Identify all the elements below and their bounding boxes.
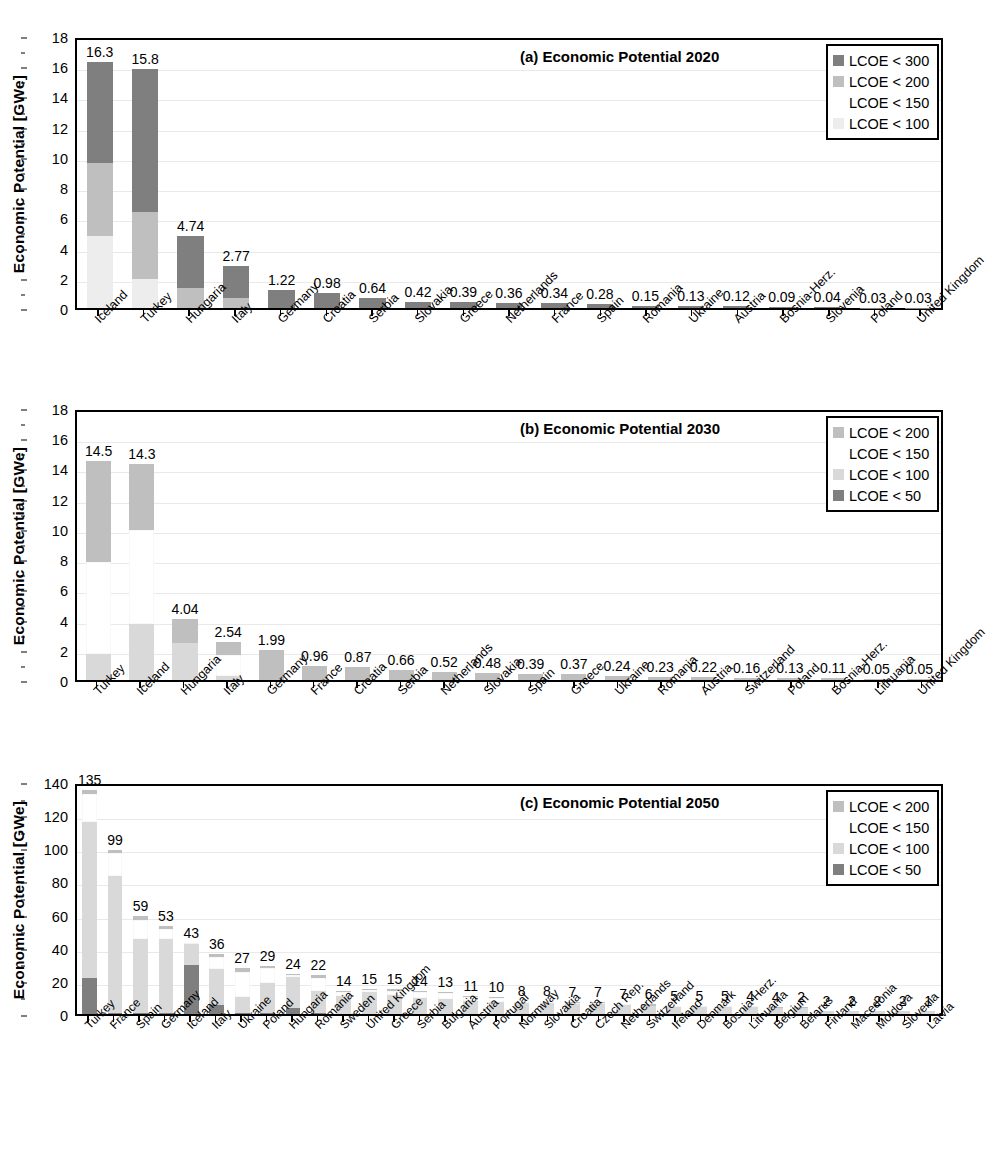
bar-value-label: 15.8 <box>132 51 159 67</box>
bar-column: 0.15 <box>623 40 668 308</box>
legend-swatch <box>833 118 844 129</box>
y-tick-label: 2 <box>60 272 68 288</box>
y-tick-mark <box>21 249 27 250</box>
plot-area-a: 024681012141618 16.315.84.742.771.220.98… <box>75 38 943 310</box>
y-tick-label: 12 <box>52 121 68 137</box>
legend-label: LCOE < 50 <box>849 862 921 878</box>
y-tick-mark <box>21 621 27 622</box>
legend-item: LCOE < 150 <box>833 817 929 838</box>
legend-swatch <box>833 864 844 875</box>
bar-column: 0.16 <box>725 412 768 680</box>
bar-value-label: 1.99 <box>258 632 285 648</box>
bar-segment <box>129 530 154 624</box>
y-tick-label: 6 <box>60 583 68 599</box>
y-tick-label: 100 <box>44 842 68 858</box>
y-minor-tick <box>21 515 25 516</box>
bar-segment <box>133 920 148 939</box>
y-tick-label: 120 <box>44 809 68 825</box>
bar-value-label: 14 <box>336 973 352 989</box>
bar-group-b: 14.514.34.042.541.990.960.870.660.520.48… <box>77 412 941 680</box>
bar-column: 0.12 <box>714 40 759 308</box>
bar-segment <box>108 876 123 1013</box>
y-tick-label: 10 <box>52 151 68 167</box>
legend-item: LCOE < 100 <box>833 838 929 859</box>
bar-value-label: 4.04 <box>171 601 198 617</box>
bar-value-label: 0.52 <box>431 654 458 670</box>
y-axis-b: 024681012141618 <box>21 410 75 682</box>
bar-column: 11 <box>458 786 483 1014</box>
y-tick-label: 6 <box>60 211 68 227</box>
panel-economic-potential-2030: Economic Potential [GWe] 024681012141618… <box>0 372 954 757</box>
y-minor-tick <box>21 833 25 834</box>
y-minor-tick <box>21 933 25 934</box>
y-tick-mark <box>21 98 27 99</box>
y-minor-tick <box>21 576 25 577</box>
y-minor-tick <box>21 999 25 1000</box>
y-tick-mark <box>21 189 27 190</box>
y-minor-tick <box>21 425 25 426</box>
y-tick-mark <box>21 916 27 917</box>
plot-area-b: 024681012141618 14.514.34.042.541.990.96… <box>75 410 943 682</box>
bar-value-label: 0.64 <box>359 280 386 296</box>
y-tick-label: 60 <box>52 909 68 925</box>
bar-value-label: 29 <box>260 948 276 964</box>
legend-label: LCOE < 150 <box>849 820 929 836</box>
bar-segment <box>209 957 224 969</box>
bar-column: 7 <box>560 786 585 1014</box>
bar-column: 14.5 <box>77 412 120 680</box>
y-minor-tick <box>21 113 25 114</box>
bar-column: 36 <box>204 786 229 1014</box>
y-tick-mark <box>21 850 27 851</box>
bar-segment <box>177 236 203 288</box>
y-minor-tick <box>21 606 25 607</box>
bar-column: 15.8 <box>122 40 167 308</box>
y-tick-label: 4 <box>60 614 68 630</box>
bar-column: 53 <box>153 786 178 1014</box>
bar-value-label: 15 <box>361 971 377 987</box>
bar-segment <box>132 69 158 212</box>
y-axis-a: 024681012141618 <box>21 38 75 310</box>
panel-title-c: (c) Economic Potential 2050 <box>520 794 719 811</box>
legend-label: LCOE < 100 <box>849 841 929 857</box>
plot-frame-a: 16.315.84.742.771.220.980.640.420.390.36… <box>75 38 943 310</box>
bar-column: 7 <box>611 786 636 1014</box>
bar-segment <box>82 822 97 978</box>
legend-item: LCOE < 100 <box>833 464 929 485</box>
y-tick-mark <box>21 440 27 441</box>
bar-column: 0.23 <box>639 412 682 680</box>
bar-segment <box>82 794 97 822</box>
y-tick-label: 8 <box>60 553 68 569</box>
legend-item: LCOE < 50 <box>833 485 929 506</box>
bar-value-label: 1.22 <box>268 272 295 288</box>
y-minor-tick <box>21 174 25 175</box>
y-tick-label: 20 <box>52 975 68 991</box>
y-tick-mark <box>21 651 27 652</box>
y-tick-label: 0 <box>60 674 68 690</box>
y-minor-tick <box>21 866 25 867</box>
bar-column: 7 <box>585 786 610 1014</box>
y-minor-tick <box>21 666 25 667</box>
stacked-bar: 15.8 <box>132 69 158 308</box>
y-tick-mark <box>21 38 27 39</box>
y-minor-tick <box>21 83 25 84</box>
bar-column: 59 <box>128 786 153 1014</box>
y-minor-tick <box>21 264 25 265</box>
y-tick-mark <box>21 410 27 411</box>
stacked-bar: 16.3 <box>87 62 113 308</box>
y-tick-label: 4 <box>60 242 68 258</box>
legend-label: LCOE < 150 <box>849 446 929 462</box>
bar-column: 0.48 <box>466 412 509 680</box>
legend-swatch <box>833 843 844 854</box>
bar-segment <box>216 642 241 655</box>
y-tick-mark <box>21 817 27 818</box>
bar-column: 0.22 <box>682 412 725 680</box>
bar-column: 0.36 <box>486 40 531 308</box>
bar-column: 43 <box>179 786 204 1014</box>
plot-area-c: 020406080100120140 135995953433627292422… <box>75 784 943 1016</box>
bar-segment <box>235 972 250 998</box>
y-axis-c: 020406080100120140 <box>21 784 75 1016</box>
bar-column: 99 <box>102 786 127 1014</box>
y-minor-tick <box>21 636 25 637</box>
legend-label: LCOE < 50 <box>849 488 921 504</box>
panel-economic-potential-2050: Economic Potential [GWe] 020406080100120… <box>0 752 954 1154</box>
